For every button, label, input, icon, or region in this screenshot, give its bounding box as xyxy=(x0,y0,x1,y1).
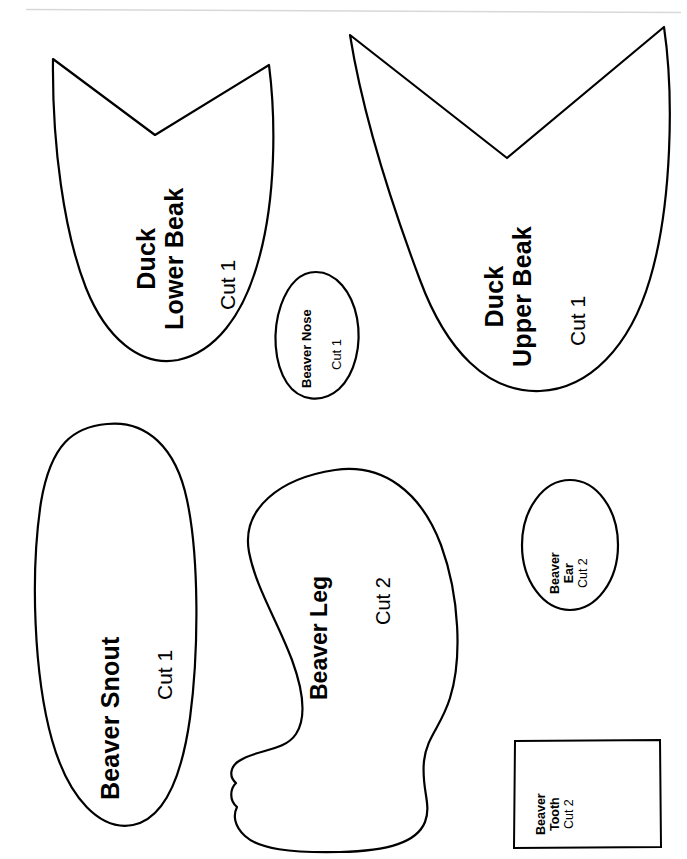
pattern-shapes-canvas xyxy=(0,0,687,859)
pattern-sheet: Duck Lower Beak Cut 1 Duck Upper Beak Cu… xyxy=(0,0,687,859)
shape-beaver-nose xyxy=(275,272,358,399)
shape-beaver-leg xyxy=(231,469,457,852)
top-divider-rule xyxy=(26,10,681,13)
shape-beaver-snout xyxy=(35,424,197,826)
shape-duck-upper-beak xyxy=(350,27,670,391)
shape-duck-lower-beak xyxy=(53,59,273,361)
shape-beaver-tooth xyxy=(514,740,661,848)
shape-beaver-ear xyxy=(522,480,618,610)
